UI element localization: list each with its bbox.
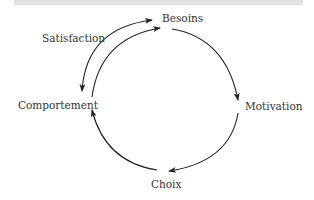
node-comportement: Comportement	[18, 100, 98, 111]
arrow-choix-comportement	[92, 110, 157, 170]
arrow-besoins-motivation	[172, 29, 238, 100]
edge-label-satisfaction: Satisfaction	[42, 33, 105, 44]
arrow-satisfaction	[82, 20, 152, 91]
arrow-motivation-choix	[169, 113, 238, 171]
node-motivation: Motivation	[245, 101, 303, 112]
node-choix: Choix	[151, 179, 181, 190]
node-besoins: Besoins	[162, 13, 203, 24]
